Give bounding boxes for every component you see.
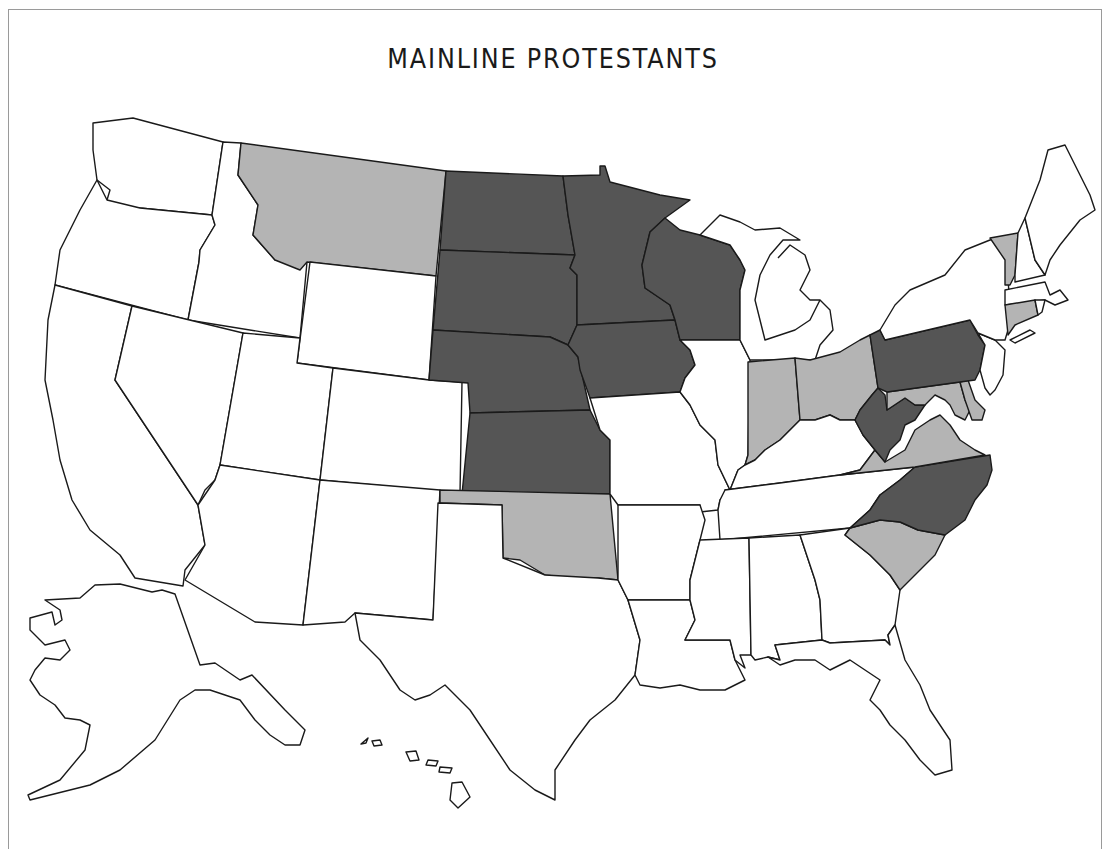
state-kansas: Kansas: [462, 410, 610, 494]
state-iowa: Iowa: [568, 320, 695, 398]
state-long-island: Long Island: [1010, 330, 1035, 343]
state-maine: Maine: [1025, 145, 1095, 275]
state-washington: Washington: [93, 118, 223, 215]
state-colorado: Colorado: [320, 368, 462, 493]
state-hawaii-kauai: Hawaii (Kauai): [361, 738, 368, 744]
state-new-york: New York: [880, 238, 1010, 340]
state-hawaii-oahu: Hawaii (Oahu): [372, 740, 382, 746]
state-florida: Florida: [768, 625, 952, 775]
state-new-mexico: New Mexico: [303, 480, 440, 625]
state-connecticut: Connecticut: [1005, 300, 1038, 335]
state-hawaii-big-island: Hawaii (Big Island): [450, 782, 470, 808]
state-hawaii-molokai-maui: Hawaii (Molokai/Maui): [406, 751, 452, 773]
state-wyoming: Wyoming: [297, 262, 436, 380]
state-north-dakota: North Dakota: [440, 171, 575, 255]
